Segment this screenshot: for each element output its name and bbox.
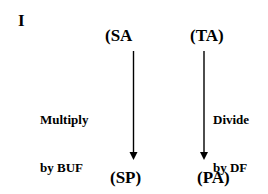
arrow-ta-to-pa	[200, 51, 208, 160]
arrows-layer	[0, 0, 268, 194]
arrow-sa-to-sp	[130, 51, 138, 160]
